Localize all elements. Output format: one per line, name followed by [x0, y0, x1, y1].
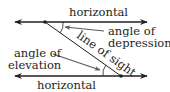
- angle-diagram: horizontal horizontal angle of depressio…: [0, 0, 170, 92]
- bottom-horizontal-label: horizontal: [37, 78, 96, 92]
- depression-angle-arc: [60, 22, 63, 33]
- elevation-label-line2: elevation: [8, 58, 62, 72]
- depression-label-line2: depression: [108, 36, 170, 50]
- bottom-point: [119, 74, 123, 78]
- elevation-angle-arc: [103, 65, 106, 76]
- top-horizontal-label: horizontal: [69, 5, 128, 19]
- top-point: [43, 20, 47, 24]
